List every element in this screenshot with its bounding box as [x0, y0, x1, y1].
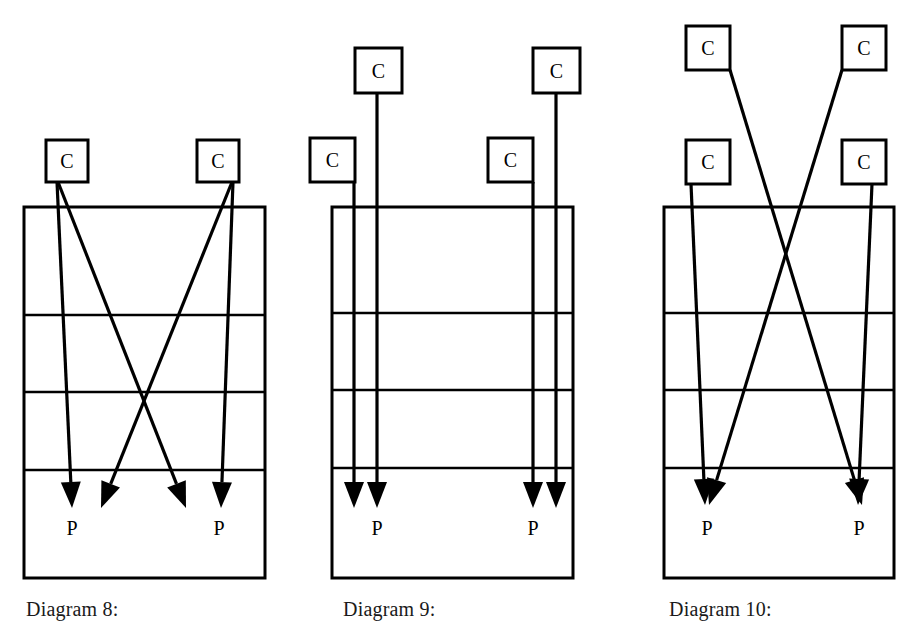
consumer-label: C — [701, 151, 714, 173]
arrow-shaft — [859, 184, 872, 479]
consumer-label: C — [857, 151, 870, 173]
arrow-diagram-10-2 — [707, 70, 842, 505]
consumer-label: C — [857, 37, 870, 59]
diagram-10-consumer-box-2[interactable]: C — [686, 140, 730, 184]
arrow-diagram-10-3 — [691, 184, 714, 505]
consumer-label: C — [701, 37, 714, 59]
arrow-shaft — [717, 70, 842, 480]
diagram-page: CCPPDiagram 8:CCCCPPDiagram 9:CCCCPPDiag… — [0, 0, 915, 635]
arrow-shaft — [730, 70, 854, 480]
diagram-10-consumer-box-4[interactable]: C — [842, 140, 886, 184]
arrow-diagram-10-4 — [849, 184, 872, 505]
diagram-10: CCCCPPDiagram 10: — [0, 0, 915, 635]
diagram-10-producer-label-1: P — [701, 517, 712, 539]
diagram-10-producer-label-2: P — [853, 517, 864, 539]
diagram-10-canvas: CCCCPP — [0, 0, 915, 635]
arrow-diagram-10-1 — [730, 70, 864, 505]
arrow-shaft — [691, 184, 704, 479]
diagram-10-consumer-box-3[interactable]: C — [842, 26, 886, 70]
diagram-10-consumer-box-1[interactable]: C — [686, 26, 730, 70]
diagram-10-caption: Diagram 10: — [669, 598, 772, 620]
